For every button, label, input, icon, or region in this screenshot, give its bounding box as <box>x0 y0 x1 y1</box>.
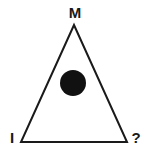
label-bottom-left-i: I <box>10 129 14 146</box>
center-dot <box>60 70 86 96</box>
triangle-diagram: M I ? <box>0 0 149 154</box>
label-bottom-right-question: ? <box>131 129 140 146</box>
label-top-m: M <box>69 4 82 21</box>
